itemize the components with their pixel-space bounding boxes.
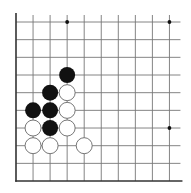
black-stone <box>42 85 58 101</box>
black-stone <box>42 120 58 136</box>
star-point-icon <box>65 20 69 24</box>
white-stone <box>59 120 75 136</box>
star-point-icon <box>168 126 172 130</box>
black-stone <box>42 102 58 118</box>
white-stone <box>76 138 92 154</box>
white-stone <box>42 138 58 154</box>
white-stone <box>25 138 41 154</box>
white-stone <box>59 85 75 101</box>
board-edges <box>15 13 182 182</box>
star-point-icon <box>168 20 172 24</box>
go-board <box>0 0 191 193</box>
grid-lines <box>16 15 180 181</box>
black-stone <box>59 67 75 83</box>
black-stone <box>25 102 41 118</box>
white-stone <box>59 102 75 118</box>
white-stone <box>25 120 41 136</box>
